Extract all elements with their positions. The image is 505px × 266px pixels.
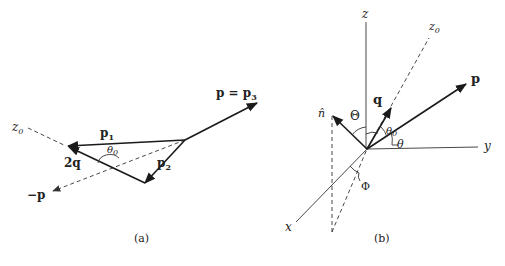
caption-b: (b) <box>374 232 390 245</box>
figure: z0 p1 p2 p = p3 2q −p θ0 (a) z z0 y <box>0 0 505 266</box>
x-axis <box>296 149 367 222</box>
Phi-label: Φ <box>361 180 370 193</box>
theta-label: θ <box>397 138 404 151</box>
Theta-label: Θ <box>350 109 360 123</box>
p1-label: p1 <box>100 126 114 142</box>
diagram-b: z z0 y x p q n̂ Θ θ0 θ Φ (b) <box>285 7 491 245</box>
z0-axis-dashed <box>28 128 66 146</box>
p3-arrow <box>185 103 257 140</box>
p1-arrow <box>68 140 185 146</box>
z-label: z <box>361 7 369 21</box>
p3-label: p = p3 <box>216 86 257 102</box>
q-label: q <box>373 92 382 107</box>
z0-label: z0 <box>11 120 23 136</box>
theta0-label: θ0 <box>107 144 118 157</box>
y-axis <box>367 147 478 149</box>
x-label: x <box>285 220 292 234</box>
p-label: p <box>471 71 480 86</box>
Theta-arc <box>352 127 366 135</box>
minus-p-label: −p <box>27 188 45 202</box>
z0-label: z0 <box>428 20 440 35</box>
n-hat-label: n̂ <box>318 107 325 120</box>
caption-a: (a) <box>134 232 149 245</box>
diagram-a: z0 p1 p2 p = p3 2q −p θ0 (a) <box>11 86 257 245</box>
Phi-arc <box>350 166 360 181</box>
two-q-label: 2q <box>64 156 81 170</box>
y-label: y <box>483 139 491 153</box>
